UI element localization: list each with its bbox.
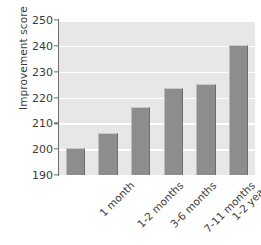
x-tick-label: 1 month — [97, 179, 137, 219]
x-axis-ticks: 1 month1-2 months3-6 months7-11 months1-… — [59, 176, 255, 244]
y-tick-label: 210 — [5, 117, 53, 130]
y-tick-label: 230 — [5, 65, 53, 78]
y-tick-mark — [54, 149, 58, 150]
y-tick-label: 220 — [5, 91, 53, 104]
bars-group — [59, 20, 255, 175]
bar — [131, 107, 151, 175]
y-tick-label: 190 — [5, 169, 53, 182]
y-tick-label: 250 — [5, 14, 53, 27]
y-tick-mark — [54, 174, 58, 175]
bar — [66, 148, 86, 175]
bar — [229, 45, 249, 175]
bar — [98, 133, 118, 175]
y-tick-label: 200 — [5, 143, 53, 156]
y-tick-mark — [54, 19, 58, 20]
y-tick-mark — [54, 97, 58, 98]
bar-chart-figure: Improvement score 190200210220230240250 … — [0, 0, 261, 245]
plot-area — [59, 20, 255, 175]
y-tick-label: 240 — [5, 39, 53, 52]
y-tick-mark — [54, 45, 58, 46]
bar — [164, 88, 184, 175]
y-tick-mark — [54, 71, 58, 72]
y-tick-mark — [54, 123, 58, 124]
bar — [196, 84, 216, 175]
